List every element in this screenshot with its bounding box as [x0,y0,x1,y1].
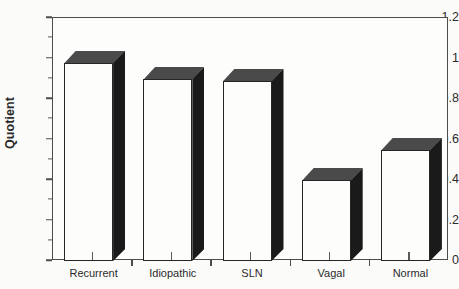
bar-front-face [302,180,351,261]
y-axis-title: Quotient [3,93,17,153]
bar-side-face [192,67,204,261]
bar-front-face [64,63,113,261]
x-axis-center-tick [92,252,93,260]
bar-side-face [272,69,284,261]
x-axis-center-tick [408,252,409,260]
x-axis-center-tick [250,252,251,260]
x-axis-category-label: Vagal [318,267,345,279]
x-axis-category-label: Idiopathic [149,267,196,279]
bar [223,18,284,261]
bar-side-face [113,51,125,261]
bar-front-face [381,150,430,261]
bar-side-face [430,138,442,261]
chart-page: Quotient 00.20.40.60.811.2 RecurrentIdio… [0,0,459,289]
bar-front-face [143,79,192,261]
x-axis-category-label: Normal [393,267,428,279]
plot-frame [52,17,448,260]
bar [143,18,204,261]
bar-side-face [351,168,363,261]
x-axis-boundary-tick [210,260,212,266]
x-axis-boundary-tick [131,260,133,266]
x-axis-center-tick [171,252,172,260]
bar-front-face [223,81,272,261]
x-axis-center-tick [329,252,330,260]
x-axis-boundary-tick [369,260,371,266]
bar [64,18,125,261]
x-axis-boundary-tick [290,260,292,266]
bar [302,18,363,261]
x-axis-category-label: Recurrent [69,267,117,279]
x-axis-category-label: SLN [241,267,262,279]
bar [381,18,442,261]
